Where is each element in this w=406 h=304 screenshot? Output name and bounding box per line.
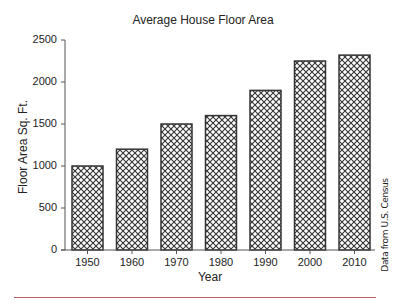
x-tick-1980: 1980 [201, 256, 241, 268]
x-tick-1970: 1970 [157, 256, 197, 268]
x-tick-2010: 2010 [335, 256, 375, 268]
y-tick-500: 500 [17, 201, 57, 213]
bar-1990 [250, 90, 281, 250]
y-tick-2000: 2000 [17, 75, 57, 87]
x-tick-2000: 2000 [290, 256, 330, 268]
y-tick-1000: 1000 [17, 159, 57, 171]
bottom-rule [14, 297, 376, 298]
bar-1970 [161, 124, 192, 250]
bar-1950 [72, 166, 103, 250]
bar-1960 [117, 149, 148, 250]
y-tick-1500: 1500 [17, 117, 57, 129]
y-tick-0: 0 [17, 243, 57, 255]
bar-2000 [295, 61, 326, 250]
x-tick-1960: 1960 [112, 256, 152, 268]
bar-2010 [339, 55, 370, 250]
x-tick-1950: 1950 [68, 256, 108, 268]
bars-group [72, 55, 370, 250]
bar-1980 [206, 116, 237, 250]
y-tick-2500: 2500 [17, 33, 57, 45]
x-tick-1990: 1990 [246, 256, 286, 268]
